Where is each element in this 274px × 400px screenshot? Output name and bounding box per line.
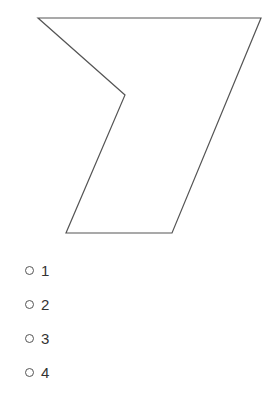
option-label: 4 xyxy=(41,365,49,380)
polygon-figure xyxy=(0,0,274,250)
option-4[interactable]: 4 xyxy=(25,355,49,389)
answer-options: 1 2 3 4 xyxy=(25,253,49,389)
option-1[interactable]: 1 xyxy=(25,253,49,287)
option-label: 3 xyxy=(41,331,49,346)
radio-icon[interactable] xyxy=(25,266,34,275)
radio-icon[interactable] xyxy=(25,334,34,343)
polygon-shape xyxy=(0,0,274,250)
radio-icon[interactable] xyxy=(25,300,34,309)
option-2[interactable]: 2 xyxy=(25,287,49,321)
option-label: 1 xyxy=(41,263,49,278)
radio-icon[interactable] xyxy=(25,368,34,377)
option-label: 2 xyxy=(41,297,49,312)
option-3[interactable]: 3 xyxy=(25,321,49,355)
